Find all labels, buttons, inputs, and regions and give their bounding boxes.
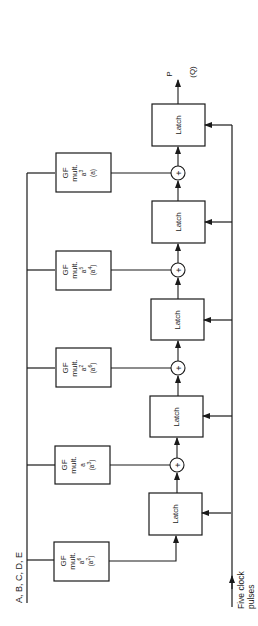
output-label-q: (Q)	[188, 66, 197, 78]
svg-text:(a3): (a3)	[86, 460, 96, 471]
svg-text:(a4): (a4)	[87, 265, 97, 276]
svg-text:Latch: Latch	[172, 407, 181, 427]
svg-text:+: +	[174, 365, 184, 370]
clock-label: Five clock pulses	[236, 570, 256, 609]
svg-text:(a6): (a6)	[87, 363, 97, 374]
svg-text:Latch: Latch	[173, 310, 182, 330]
input-bus	[27, 173, 55, 603]
gf-mult-1-line1: GF	[61, 167, 70, 178]
gf-mult-box-1: GF mult. a3 (a)	[56, 153, 111, 192]
gf-mult-box-3: GF mult. a2 (a6)	[56, 348, 111, 387]
svg-text:a: a	[79, 463, 86, 467]
gf-mult-box-4: GF mult. a (a3)	[55, 446, 110, 484]
svg-text:(a2): (a2)	[85, 556, 95, 567]
svg-text:pulses: pulses	[246, 584, 256, 609]
output-label-p: P	[165, 71, 174, 76]
gf-mult-1-alt: (a)	[89, 169, 97, 177]
latch-1: Latch	[152, 104, 205, 146]
gf-mult-box-5: GF mult. a6 (a2)	[54, 542, 109, 581]
svg-text:+: +	[173, 462, 183, 467]
latch-2: Latch	[152, 201, 205, 243]
svg-text:+: +	[174, 267, 184, 272]
svg-text:Latch: Latch	[171, 504, 180, 524]
svg-text:Five clock: Five clock	[236, 570, 246, 609]
input-label: A, B, C, D, E	[14, 552, 24, 603]
clock-line	[202, 125, 232, 607]
gf-mult-box-2: GF mult. a5 (a4)	[56, 251, 111, 290]
latch-3: Latch	[151, 299, 204, 340]
svg-text:Latch: Latch	[174, 115, 183, 135]
latch-5: Latch	[149, 493, 202, 535]
svg-text:Latch: Latch	[174, 212, 183, 232]
svg-text:mult.: mult.	[69, 456, 78, 473]
svg-text:GF: GF	[61, 264, 70, 275]
svg-text:+: +	[174, 170, 184, 175]
latch-4: Latch	[150, 396, 203, 437]
svg-text:GF: GF	[61, 362, 70, 373]
gf-multiplier-diagram: A, B, C, D, E GF mult. a3 (a) GF mult. a…	[0, 0, 258, 626]
svg-text:GF: GF	[60, 459, 69, 470]
svg-text:GF: GF	[59, 555, 68, 566]
